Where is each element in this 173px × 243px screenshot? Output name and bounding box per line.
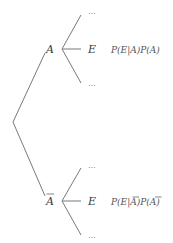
formula-top-p1: P( — [110, 45, 121, 55]
formula-bottom: P(E|A)P(A) — [110, 197, 162, 208]
edge-a-to-upper-ellipsis — [62, 15, 81, 49]
svg-text:P(E|A)P(A): P(E|A)P(A) — [110, 197, 160, 208]
formula-bottom-end: ) — [155, 197, 160, 207]
formula-top-end: ) — [155, 45, 160, 55]
ellipsis-a-top: ... — [88, 7, 96, 16]
formula-bottom-p1: P( — [110, 197, 121, 207]
formula-bottom-mid: )P( — [136, 197, 151, 207]
formula-top: P(E|A)P(A) — [110, 45, 160, 56]
ellipsis-a-bar-top: ... — [88, 161, 96, 170]
node-e-under-a-bar: E — [87, 195, 96, 208]
ellipsis-a-bottom: ... — [88, 79, 96, 88]
node-a-bar-label: A — [45, 195, 54, 208]
formula-top-mid: )P( — [136, 45, 151, 55]
edge-root-to-a-bar — [13, 122, 45, 196]
node-a-label: A — [45, 43, 54, 56]
edge-a-bar-to-lower-ellipsis — [62, 201, 81, 235]
ellipsis-a-bar-bottom: ... — [88, 231, 96, 240]
edge-a-to-lower-ellipsis — [62, 49, 81, 83]
svg-text:P(E|A)P(A): P(E|A)P(A) — [110, 45, 160, 56]
probability-tree-diagram: A ... E ... P(E|A)P(A) A ... E ... P(E|A… — [0, 0, 173, 243]
node-e-under-a: E — [87, 43, 96, 56]
edge-root-to-a — [13, 53, 45, 122]
edge-a-bar-to-upper-ellipsis — [62, 168, 81, 201]
